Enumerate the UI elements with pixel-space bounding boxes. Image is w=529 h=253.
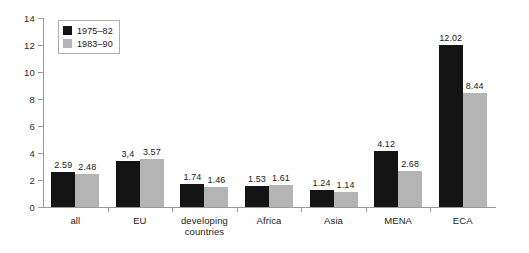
x-axis-tick-mark [108, 207, 109, 212]
bar: 1.46 [204, 187, 228, 207]
bar-value-label: 4.12 [377, 139, 395, 149]
bar-value-label: 2.48 [78, 162, 96, 172]
chart-legend: 1975–82 1983–90 [58, 20, 120, 54]
bar-group: 1.741.46 [172, 18, 237, 207]
x-axis-category-label: Africa [237, 215, 302, 226]
bar: 4.12 [374, 151, 398, 207]
bar: 2.59 [51, 172, 75, 207]
bar: 3,4 [116, 161, 140, 207]
bar-value-label: 3,4 [121, 149, 134, 159]
legend-swatch-icon-series-1 [63, 39, 72, 48]
legend-label-series-0: 1975–82 [77, 26, 113, 36]
legend-item-series-1: 1983–90 [63, 37, 113, 50]
legend-label-series-1: 1983–90 [77, 39, 113, 49]
y-axis-tick-label: 6 [30, 121, 35, 132]
x-axis-tick-mark [237, 207, 238, 212]
bar: 1.24 [310, 190, 334, 207]
x-axis-category-label: developing countries [172, 215, 237, 237]
bar: 12.02 [439, 45, 463, 207]
bar-value-label: 8.44 [466, 81, 484, 91]
bar-value-label: 1.46 [207, 175, 225, 185]
bar-chart: 02468101214 2.592.483,43.571.741.461.531… [0, 0, 529, 253]
bar-value-label: 1.14 [337, 180, 355, 190]
x-axis-category-label: Asia [301, 215, 366, 226]
bar: 3.57 [140, 159, 164, 207]
y-axis-tick-mark [38, 207, 43, 208]
y-axis-tick-label: 14 [24, 13, 35, 24]
bar-group: 12.028.44 [430, 18, 495, 207]
x-axis-tick-mark [430, 207, 431, 212]
bar-value-label: 3.57 [143, 147, 161, 157]
bar: 2.48 [75, 174, 99, 207]
bar-value-label: 1.24 [313, 178, 331, 188]
x-axis-category-label: EU [108, 215, 173, 226]
legend-item-series-0: 1975–82 [63, 24, 113, 37]
x-axis-category-label: ECA [430, 215, 495, 226]
y-axis-tick-label: 2 [30, 175, 35, 186]
bar-group: 4.122.68 [366, 18, 431, 207]
bar: 1.74 [180, 184, 204, 207]
bar: 8.44 [463, 93, 487, 207]
bar-value-label: 1.53 [248, 174, 266, 184]
bar-value-label: 1.61 [272, 173, 290, 183]
y-axis-tick-label: 8 [30, 94, 35, 105]
bar: 1.14 [334, 192, 358, 207]
bar-value-label: 2.68 [401, 159, 419, 169]
bar-group: 1.531.61 [237, 18, 302, 207]
y-axis-tick-label: 0 [30, 202, 35, 213]
y-axis-tick-label: 4 [30, 148, 35, 159]
x-axis-category-label: MENA [366, 215, 431, 226]
bar-group: 1.241.14 [301, 18, 366, 207]
bar-value-label: 12.02 [439, 33, 462, 43]
legend-swatch-icon-series-0 [63, 26, 72, 35]
x-axis-tick-mark [366, 207, 367, 212]
x-axis-tick-mark [172, 207, 173, 212]
bar: 1.61 [269, 185, 293, 207]
x-axis-tick-mark [301, 207, 302, 212]
bar-value-label: 1.74 [183, 172, 201, 182]
x-axis-line [43, 207, 496, 208]
x-axis-category-label: all [43, 215, 108, 226]
y-axis-tick-label: 12 [24, 40, 35, 51]
bar: 2.68 [398, 171, 422, 207]
bar-value-label: 2.59 [54, 160, 72, 170]
bar: 1.53 [245, 186, 269, 207]
y-axis-tick-label: 10 [24, 67, 35, 78]
